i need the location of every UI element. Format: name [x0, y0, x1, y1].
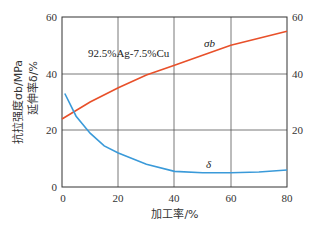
y2-tick-60: 60	[292, 11, 304, 23]
y-tick-40: 40	[46, 68, 58, 80]
x-tick-20: 20	[113, 192, 125, 204]
alloy-annotation: 92.5%Ag-7.5%Cu	[88, 47, 170, 59]
x-tick-80: 80	[282, 192, 294, 204]
y-axis-right-ticks: 20 40 60	[292, 11, 304, 136]
chart: 0 20 40 60 20 40 60 0 20 40 60 80 加工率/% …	[0, 0, 312, 231]
delta-series-label: δ	[206, 158, 212, 170]
y-tick-0: 0	[52, 181, 58, 193]
plot-frame	[62, 17, 287, 187]
x-axis-label: 加工率/%	[151, 207, 198, 221]
delta-line	[65, 94, 287, 173]
sigma-b-line	[62, 31, 287, 119]
x-axis-ticks: 0 20 40 60 80	[60, 192, 293, 204]
y-axis-label-strength: 抗拉强度σb/MPa	[11, 60, 25, 144]
x-tick-40: 40	[169, 192, 181, 204]
x-tick-60: 60	[226, 192, 238, 204]
gridlines	[62, 17, 287, 187]
sigma-b-series-label: σb	[204, 37, 215, 49]
y2-tick-40: 40	[292, 68, 304, 80]
y-axis-label-elongation: 延伸率δ/%	[26, 61, 40, 115]
y-tick-20: 20	[46, 124, 58, 136]
y-axis-left-ticks: 0 20 40 60	[46, 11, 58, 193]
x-tick-0: 0	[60, 192, 66, 204]
y2-tick-20: 20	[292, 124, 304, 136]
y-tick-60: 60	[46, 11, 58, 23]
